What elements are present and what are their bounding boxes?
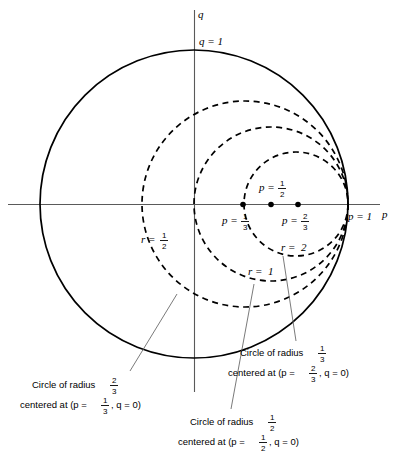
label-r-half-denominator: 2 (162, 242, 167, 251)
caption-radius-one-half: Circle of radius 1 2 centered at (p = 1 … (178, 413, 299, 453)
q-equals-1-label: q = 1 (199, 35, 223, 47)
leader-caption-radius-two-thirds (130, 294, 177, 371)
point-p-one-third-label: p = 1 3 (221, 212, 249, 232)
p-equals-1-label: p = 1 (347, 210, 372, 222)
caption-radius-two-thirds-line1-prefix: Circle of radius (32, 379, 96, 390)
caption-radius-one-third-line1-numerator: 1 (320, 344, 325, 353)
caption-radius-one-third: Circle of radius 1 3 centered at (p = 2 … (228, 344, 349, 384)
point-p-two-thirds-prefix: p = (281, 214, 298, 226)
caption-radius-one-half-line2-suffix: , q = 0) (269, 436, 299, 447)
caption-radius-two-thirds-line2-suffix: , q = 0) (111, 399, 141, 410)
point-p-two-thirds-denominator: 3 (303, 223, 308, 232)
point-p-one-half-label: p = 1 2 (258, 179, 286, 199)
caption-radius-one-half-line2-numerator: 1 (261, 433, 266, 442)
smith-chart-diagram: q p q = 1 p = 1 p = 1 3 (0, 0, 403, 455)
point-p-one-half-denominator: 2 (280, 190, 285, 199)
marked-points-group: p = 1 3 p = 1 2 p = 2 3 (221, 179, 309, 232)
label-r-half-prefix: r = (141, 233, 155, 245)
caption-radius-one-third-line1-denominator: 3 (320, 355, 325, 364)
point-p-one-third-dot (240, 202, 246, 208)
q-axis-label: q (198, 8, 204, 20)
caption-radius-one-half-line2-prefix: centered at (p = (178, 436, 245, 447)
caption-radius-one-half-line1-denominator: 2 (270, 424, 275, 433)
label-r-two-value: 2 (301, 241, 307, 253)
label-r-two: r = 2 (281, 241, 307, 253)
figure-root: q p q = 1 p = 1 p = 1 3 (0, 0, 403, 455)
label-r-half: r = 1 2 (141, 231, 168, 251)
point-p-two-thirds-numerator: 2 (303, 212, 308, 221)
caption-radius-two-thirds-line1-numerator: 2 (112, 376, 117, 385)
caption-radius-one-third-line1-prefix: Circle of radius (240, 347, 304, 358)
point-p-one-half-numerator: 1 (280, 179, 285, 188)
point-p-one-third-numerator: 1 (243, 212, 248, 221)
caption-radius-one-half-line1-prefix: Circle of radius (190, 416, 254, 427)
caption-radius-one-half-line2-denominator: 2 (261, 444, 266, 453)
label-r-two-prefix: r = (281, 241, 295, 253)
label-r-half-numerator: 1 (162, 231, 167, 240)
label-r-one-value: 1 (268, 265, 274, 277)
caption-radius-two-thirds: Circle of radius 2 3 centered at (p = 1 … (20, 376, 141, 416)
label-r-one: r = 1 (248, 265, 274, 277)
point-p-two-thirds-dot (295, 202, 301, 208)
point-p-one-third-denominator: 3 (243, 223, 248, 232)
leader-lines-group (130, 256, 296, 409)
point-p-one-half-prefix: p = (258, 181, 275, 193)
captions-group: Circle of radius 2 3 centered at (p = 1 … (20, 344, 349, 453)
point-p-two-thirds-label: p = 2 3 (281, 212, 309, 232)
caption-radius-one-third-line2-prefix: centered at (p = (228, 367, 295, 378)
p-axis-label: p (381, 208, 388, 220)
caption-radius-one-half-line1-numerator: 1 (270, 413, 275, 422)
point-p-one-half-dot (268, 202, 274, 208)
point-p-one-third-prefix: p = (221, 214, 238, 226)
caption-radius-two-thirds-line1-denominator: 3 (112, 387, 117, 396)
caption-radius-two-thirds-line2-numerator: 1 (103, 396, 108, 405)
caption-radius-one-third-line2-suffix: , q = 0) (319, 367, 349, 378)
label-r-one-prefix: r = (248, 265, 262, 277)
caption-radius-one-third-line2-numerator: 2 (311, 364, 316, 373)
caption-radius-two-thirds-line2-prefix: centered at (p = (20, 399, 87, 410)
axes-group: q p (8, 8, 388, 392)
caption-radius-one-third-line2-denominator: 3 (311, 375, 316, 384)
caption-radius-two-thirds-line2-denominator: 3 (103, 407, 108, 416)
axis-tick-labels: q = 1 p = 1 (199, 35, 372, 222)
